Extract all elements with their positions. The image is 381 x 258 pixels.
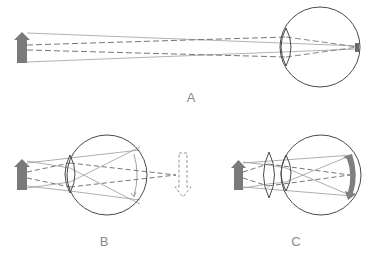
object-arrow-icon <box>231 160 246 190</box>
eyeball-outline <box>67 135 147 215</box>
panel-a: A <box>14 7 360 105</box>
panel-label-b: B <box>100 234 109 249</box>
virtual-image-arrow-icon <box>175 153 191 197</box>
panel-b: B <box>14 135 191 249</box>
object-arrow-icon <box>14 32 30 63</box>
eye-optics-diagram: A B <box>0 0 381 258</box>
panel-c: C <box>231 135 361 249</box>
blurred-retina-image <box>134 154 137 196</box>
eyeball-outline <box>280 7 360 87</box>
retina-image <box>355 43 359 52</box>
panel-label-a: A <box>187 90 196 105</box>
object-arrow-icon <box>14 159 30 190</box>
corrective-lens <box>264 152 275 198</box>
panel-label-c: C <box>291 234 300 249</box>
